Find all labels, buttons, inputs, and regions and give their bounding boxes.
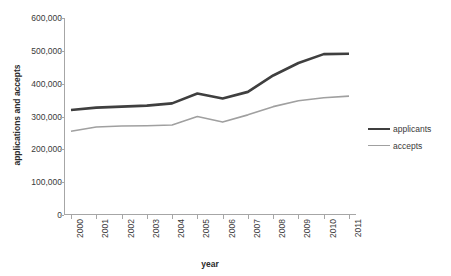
legend-item-accepts[interactable]: accepts (368, 137, 451, 154)
y-axis-tick-mark (60, 182, 64, 183)
y-axis-tick-mark (60, 215, 64, 216)
chart-legend: applicantsaccepts (368, 120, 451, 154)
legend-item-label: accepts (393, 141, 422, 151)
legend-item-applicants[interactable]: applicants (368, 120, 451, 137)
x-axis-tick-label: 2003 (151, 219, 161, 238)
legend-line-swatch (368, 128, 390, 130)
x-axis-tick-label: 2000 (75, 219, 85, 238)
plot-area (64, 18, 356, 215)
legend-line-swatch (368, 145, 390, 146)
x-axis-tick-label: 2001 (100, 219, 110, 238)
y-axis-tick-labels: 0100,000200,000300,000400,000500,000600,… (18, 0, 62, 276)
y-axis-tick-mark (60, 18, 64, 19)
series-line-applicants (71, 54, 349, 110)
x-axis-tick-label: 2006 (227, 219, 237, 238)
y-axis-tick-label: 400,000 (20, 79, 62, 89)
x-axis-tick-label: 2005 (201, 219, 211, 238)
x-axis-tick-label: 2011 (353, 219, 363, 237)
y-axis-tick-label: 300,000 (20, 112, 62, 122)
x-axis-tick-label: 2007 (252, 219, 262, 238)
series-line-accepts (71, 96, 349, 131)
x-axis-tick-labels: 2000200120022003200420052006200720082009… (64, 217, 356, 253)
x-axis-title: year (64, 259, 356, 269)
x-axis-tick-label: 2009 (302, 219, 312, 238)
legend-item-label: applicants (393, 124, 431, 134)
y-axis-tick-label: 100,000 (20, 177, 62, 187)
x-axis-tick-label: 2010 (328, 219, 338, 238)
y-axis-tick-mark (60, 51, 64, 52)
y-axis-tick-mark (60, 149, 64, 150)
y-axis-tick-label: 0 (20, 210, 62, 220)
x-axis-tick-label: 2004 (176, 219, 186, 238)
series-layer (64, 18, 356, 215)
line-chart: applications and accepts 0100,000200,000… (0, 0, 451, 276)
x-axis-tick-label: 2008 (277, 219, 287, 238)
y-axis-tick-label: 500,000 (20, 46, 62, 56)
y-axis-tick-label: 600,000 (20, 13, 62, 23)
y-axis-tick-mark (60, 117, 64, 118)
x-axis-tick-label: 2002 (126, 219, 136, 238)
y-axis-tick-label: 200,000 (20, 144, 62, 154)
y-axis-tick-mark (60, 84, 64, 85)
